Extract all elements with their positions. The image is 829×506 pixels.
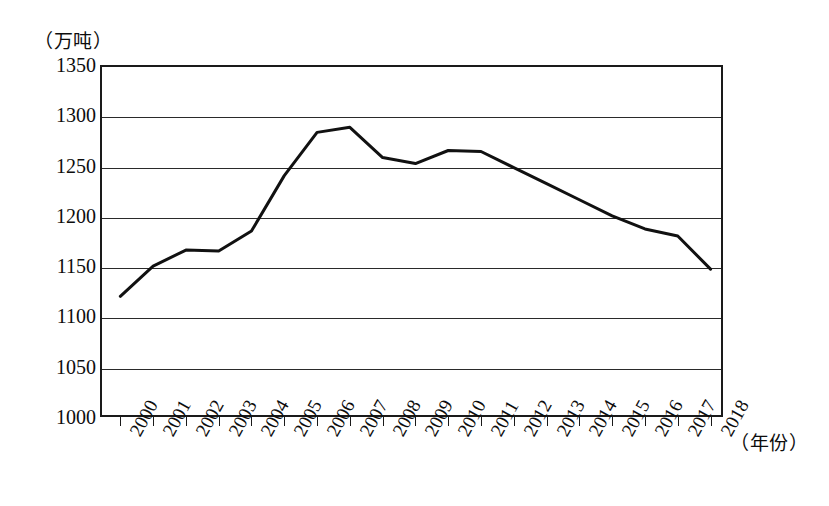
y-axis-tick-label: 1000: [56, 407, 96, 427]
gridline: [102, 218, 721, 219]
y-axis-tick-label: 1200: [56, 206, 96, 226]
y-axis-tick-label: 1100: [57, 306, 96, 326]
y-axis-tick-label: 1050: [56, 357, 96, 377]
line-chart: （万吨） 10001050110011501200125013001350 20…: [0, 0, 829, 506]
gridlines: [102, 67, 721, 415]
y-axis-tick-label: 1300: [56, 105, 96, 125]
y-axis-unit-label: （万吨）: [34, 26, 112, 53]
y-axis-tick-label: 1250: [56, 156, 96, 176]
gridline: [102, 168, 721, 169]
x-axis-unit-label: （年份）: [730, 428, 808, 455]
plot-frame: [100, 65, 723, 417]
gridline: [102, 369, 721, 370]
gridline: [102, 268, 721, 269]
y-axis-tick-label: 1350: [56, 55, 96, 75]
gridline: [102, 117, 721, 118]
gridline: [102, 318, 721, 319]
y-axis-tick-label: 1150: [57, 256, 96, 276]
x-axis-tick-mark: [120, 417, 121, 426]
